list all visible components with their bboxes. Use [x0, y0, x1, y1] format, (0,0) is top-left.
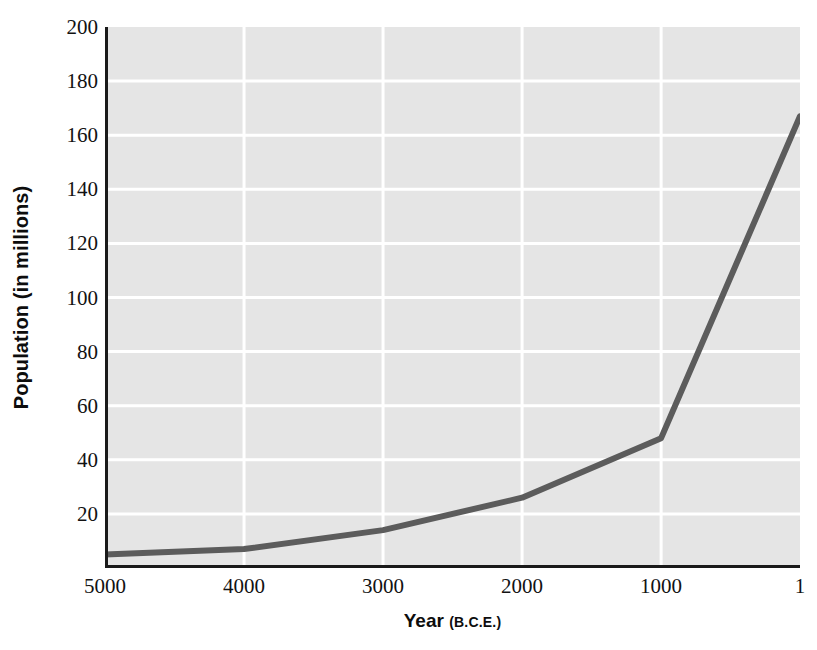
y-axis-title: Population (in millions) [4, 27, 38, 568]
y-tick-label: 180 [67, 69, 99, 94]
x-axis-title-suffix: (B.C.E.) [449, 614, 501, 630]
plot-area [105, 27, 800, 568]
y-tick-label: 100 [67, 285, 99, 310]
y-tick-label: 60 [77, 393, 98, 418]
y-tick-label: 80 [77, 339, 98, 364]
x-axis-title: Year (B.C.E.) [105, 610, 800, 632]
y-tick-label: 20 [77, 501, 98, 526]
y-axis-tick-labels: 20406080100120140160180200 [48, 27, 98, 568]
x-tick-label: 1 [795, 574, 806, 599]
y-tick-label: 40 [77, 447, 98, 472]
x-tick-label: 5000 [84, 574, 126, 599]
x-axis-title-main: Year [404, 610, 444, 631]
y-tick-label: 200 [67, 15, 99, 40]
x-tick-label: 1000 [640, 574, 682, 599]
x-axis-tick-labels: 500040003000200010001 [105, 574, 800, 608]
x-tick-label: 4000 [223, 574, 265, 599]
x-tick-label: 2000 [501, 574, 543, 599]
y-tick-label: 160 [67, 123, 99, 148]
x-tick-label: 3000 [362, 574, 404, 599]
y-tick-label: 140 [67, 177, 99, 202]
population-line-chart: Population (in millions) 204060801001201… [0, 0, 817, 650]
y-tick-label: 120 [67, 231, 99, 256]
chart-canvas [105, 27, 800, 568]
